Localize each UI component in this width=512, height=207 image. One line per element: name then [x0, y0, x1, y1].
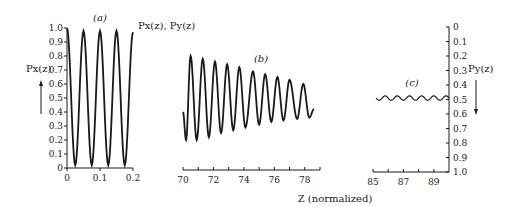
- panel-a-ytick-label: 0.6: [49, 79, 64, 89]
- panel-b-curve: [183, 56, 314, 140]
- panel-a-ytick-label: 0.7: [49, 65, 64, 75]
- panel-a-curve: [67, 28, 133, 165]
- panel-c-ylabel: Py(z): [468, 63, 494, 74]
- panel-a-xtick-label: 0: [64, 173, 70, 183]
- x-axis-label: Z (normalized): [298, 193, 373, 204]
- panel-a-ytick-label: 0.8: [49, 51, 64, 61]
- panel-c-label: (c): [405, 77, 419, 88]
- panel-c-ytick-label: 0.6: [453, 109, 468, 119]
- panel-c-ytick-label: 0.3: [453, 66, 468, 76]
- panel-c-ytick-label: 0.4: [453, 80, 468, 90]
- panel-b: (b) 7072747678: [177, 53, 320, 185]
- panel-c-ytick-label: 0.1: [453, 37, 467, 47]
- panel-c-ytick-label: 0.2: [453, 51, 467, 61]
- panel-b-xtick-label: 70: [177, 175, 189, 185]
- panel-c-ytick-label: 1.0: [453, 167, 468, 177]
- panel-c-ytick-label: 0: [453, 22, 459, 32]
- panel-c-ytick-label: 0.5: [453, 95, 468, 105]
- panel-a-ytick-label: 0.1: [49, 149, 63, 159]
- panel-a-ytick-label: 0.9: [49, 37, 64, 47]
- down-arrow-icon: [474, 80, 478, 115]
- panel-b-xtick-label: 78: [299, 175, 311, 185]
- panel-c: (c) 00.10.20.30.40.50.60.70.80.91.0 8587…: [367, 22, 493, 187]
- panel-a-ytick-label: 0.2: [49, 135, 63, 145]
- panel-a-ytick-label: 1.0: [49, 23, 64, 33]
- panel-a-ytick-label: 0.4: [49, 107, 64, 117]
- panel-a-ytick-label: 0.3: [49, 121, 64, 131]
- panel-c-ytick-label: 0.7: [453, 124, 468, 134]
- panel-a-label: (a): [93, 12, 107, 23]
- panel-a-xtick-label: 0.1: [93, 173, 107, 183]
- panel-a-series-label: Px(z), Py(z): [138, 20, 195, 31]
- panel-c-curve: [376, 96, 449, 100]
- panel-c-xtick-label: 87: [398, 177, 410, 187]
- panel-a-xtick-label: 0.2: [126, 173, 140, 183]
- up-arrow-icon: [39, 80, 43, 114]
- panel-c-ytick-label: 0.8: [453, 138, 468, 148]
- panel-b-label: (b): [254, 53, 268, 64]
- panel-a-ytick-label: 0.5: [49, 93, 64, 103]
- panel-b-xtick-label: 74: [238, 175, 250, 185]
- chart-figure: (a) Px(z), Py(z) Px(z) 00.10.20.30.40.50…: [0, 0, 512, 207]
- panel-b-xtick-label: 72: [208, 175, 219, 185]
- panel-a: (a) Px(z), Py(z) Px(z) 00.10.20.30.40.50…: [26, 12, 195, 183]
- panel-a-ytick-label: 0: [57, 163, 63, 173]
- panel-c-xtick-label: 85: [367, 177, 379, 187]
- panel-c-xtick-label: 89: [428, 177, 440, 187]
- panel-c-ytick-label: 0.9: [453, 153, 468, 163]
- panel-b-xtick-label: 76: [269, 175, 281, 185]
